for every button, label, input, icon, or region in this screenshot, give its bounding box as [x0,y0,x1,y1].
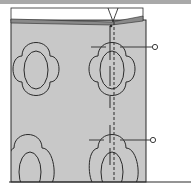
callout-circle-icon [150,137,155,142]
callout-circle-icon [152,44,157,49]
fabric-panel [11,20,146,182]
sewing-diagram [0,0,191,185]
